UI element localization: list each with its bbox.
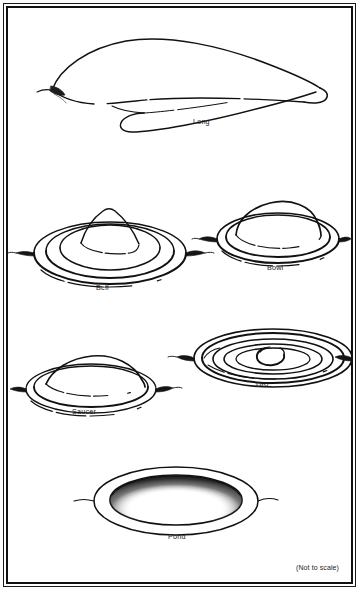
shape-label-bowl: Bowl [267,264,283,271]
shape-pond-drawing [74,467,278,535]
figure-plate: Long Bell Bowl Saucer Disc Pond (Not to … [8,8,351,582]
shape-label-disc: Disc [256,381,271,388]
line-art-layer [8,8,351,582]
shape-saucer-drawing [10,356,182,416]
shape-label-long: Long [193,118,210,125]
shape-label-pond: Pond [168,533,186,540]
shape-bell-drawing [8,209,214,287]
figure-root: Long Bell Bowl Saucer Disc Pond (Not to … [0,0,361,592]
shape-long-drawing [37,39,327,132]
scale-note: (Not to scale) [296,564,339,571]
shape-label-saucer: Saucer [72,408,96,415]
shape-bowl-drawing [192,202,351,266]
shape-disc-drawing [168,329,351,387]
shape-label-bell: Bell [96,284,109,291]
